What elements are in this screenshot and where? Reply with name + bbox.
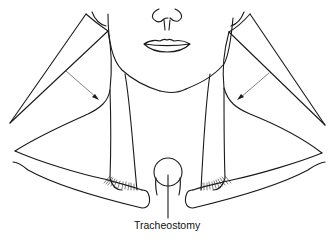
face	[108, 9, 233, 92]
right-scm-outer	[213, 88, 225, 190]
left-flap-inner-line	[10, 31, 108, 123]
left-flap-top	[86, 14, 108, 31]
right-clavicle-lower	[185, 162, 325, 208]
left-neck-contour	[15, 31, 111, 151]
chin	[160, 89, 186, 92]
left-scm-outer	[110, 90, 122, 190]
left-scm-inner	[125, 74, 137, 190]
left-neck	[10, 12, 150, 208]
right-neck	[185, 12, 325, 208]
left-flap-outer-line	[10, 14, 86, 123]
left-clavicle-lower	[13, 162, 150, 208]
jaw-left	[108, 14, 160, 91]
left-arrow-shaft	[66, 71, 97, 98]
lips	[144, 39, 190, 52]
tracheostomy-label: Tracheostomy	[134, 219, 200, 231]
right-arrow-head	[237, 94, 244, 100]
right-neck-contour	[223, 32, 322, 153]
tracheostomy	[154, 158, 182, 218]
nose	[152, 9, 181, 30]
neck-flap-diagram: Tracheostomy	[0, 0, 333, 239]
left-ear-line	[92, 12, 106, 26]
right-arrow-shaft	[240, 73, 269, 98]
right-flap-outer-line	[250, 14, 325, 125]
right-scm-fibers	[201, 176, 231, 190]
right-scm-inner	[201, 74, 210, 190]
